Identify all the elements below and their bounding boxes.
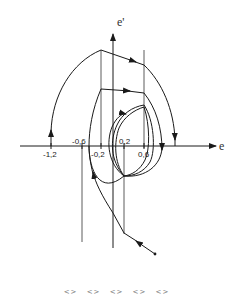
tick-label: -1,2 <box>43 150 57 159</box>
second-trajectory-top <box>101 89 130 91</box>
second-trajectory-top-end <box>128 91 144 93</box>
tick-label: -0,6 <box>72 137 86 146</box>
phase-plane-diagram: e e' -1,2 -0,6 -0,2 0,2 0,6 <box>0 0 233 305</box>
outer-trajectory-top-segment <box>101 50 136 62</box>
tick-label: 0,2 <box>119 137 131 146</box>
outer-trajectory-left-arc-upper <box>51 50 101 132</box>
outer-trajectory-top-segment-end <box>134 62 144 66</box>
pager-item[interactable]: <> <box>156 288 170 296</box>
pager-item[interactable]: <> <box>64 288 78 296</box>
incoming-trajectory-rise <box>93 172 113 213</box>
tick-label: -0,2 <box>91 150 105 159</box>
incoming-trajectory-segment-2 <box>113 213 138 242</box>
e-prime-axis-label: e' <box>117 15 125 29</box>
axes <box>20 34 216 248</box>
pager: <> <> <> <> <> <box>0 288 233 296</box>
pager-item[interactable]: <> <box>133 288 147 296</box>
incoming-trajectory-segment <box>136 241 155 254</box>
pager-item[interactable]: <> <box>110 288 124 296</box>
e-axis-label: e <box>219 139 224 153</box>
pager-item[interactable]: <> <box>87 288 101 296</box>
start-point <box>154 253 157 256</box>
